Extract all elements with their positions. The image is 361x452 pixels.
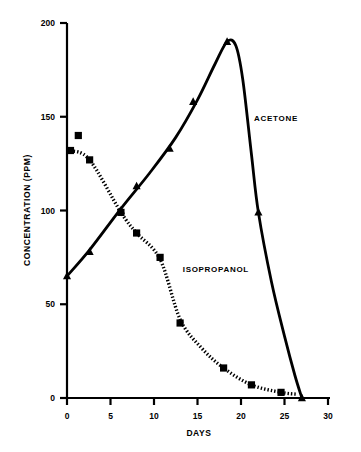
data-point-marker [75, 132, 82, 139]
x-tick-label: 25 [280, 411, 290, 421]
y-tick-label: 50 [46, 299, 56, 309]
concentration-vs-days-chart: 050100150200 051015202530 ACETONEISOPROP… [0, 0, 361, 452]
data-point-marker [86, 156, 93, 163]
data-point-marker [177, 319, 184, 326]
data-point-marker [133, 229, 140, 236]
data-point-marker [220, 364, 227, 371]
x-tick-label: 15 [193, 411, 203, 421]
x-axis-title: DAYS [186, 428, 211, 438]
x-tick-label: 0 [65, 411, 70, 421]
y-tick-label: 150 [41, 112, 55, 122]
y-axis-title: CONCENTRATION (PPM) [22, 154, 32, 266]
x-tick-label: 5 [108, 411, 113, 421]
x-tick-label: 30 [323, 411, 333, 421]
y-tick-label: 200 [41, 18, 55, 28]
series-label-acetone: ACETONE [254, 114, 298, 123]
chart-background [0, 0, 361, 452]
y-tick-label: 0 [50, 393, 55, 403]
chart-canvas: 050100150200 051015202530 ACETONEISOPROP… [0, 0, 361, 452]
series-label-isopropanol: ISOPROPANOL [183, 265, 249, 274]
x-tick-label: 10 [149, 411, 159, 421]
y-tick-label: 100 [41, 206, 55, 216]
data-point-marker [248, 381, 255, 388]
data-point-marker [117, 209, 124, 216]
data-point-marker [67, 147, 74, 154]
x-tick-label: 20 [236, 411, 246, 421]
data-point-marker [277, 389, 284, 396]
data-point-marker [156, 254, 163, 261]
